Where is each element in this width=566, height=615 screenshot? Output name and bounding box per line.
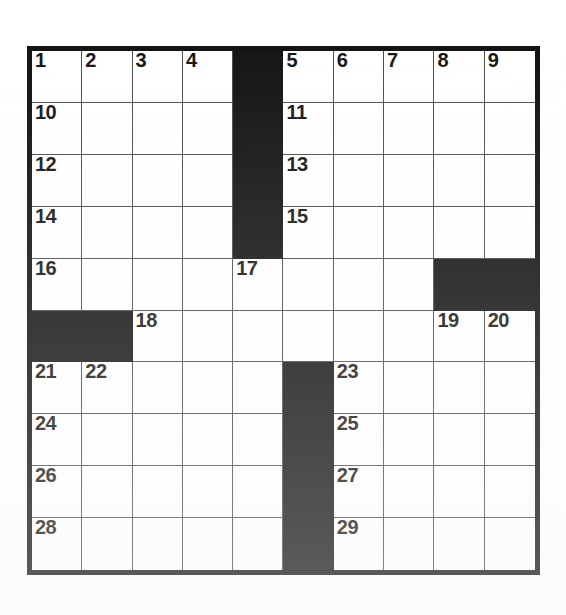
cell-number: 2 [85,51,96,72]
crossword-cell[interactable] [82,207,132,259]
crossword-cell[interactable] [485,103,535,155]
crossword-cell[interactable] [183,311,233,363]
cell-number: 14 [35,207,56,228]
crossword-cell[interactable] [384,155,434,207]
crossword-cell[interactable]: 1 [32,51,82,103]
crossword-cell[interactable]: 13 [283,155,333,207]
crossword-cell[interactable]: 19 [434,311,484,363]
crossword-cell[interactable] [384,259,434,311]
cell-number: 24 [35,414,56,435]
crossword-cell[interactable] [82,466,132,518]
crossword-cell[interactable]: 4 [183,51,233,103]
crossword-cell[interactable] [384,362,434,414]
crossword-cell[interactable] [434,414,484,466]
crossword-cell[interactable] [384,518,434,570]
crossword-cell[interactable] [384,311,434,363]
crossword-cell[interactable]: 16 [32,259,82,311]
crossword-cell[interactable]: 8 [434,51,484,103]
crossword-cell[interactable] [233,518,283,570]
crossword-cell[interactable]: 7 [384,51,434,103]
crossword-cell[interactable] [183,518,233,570]
crossword-cell[interactable] [434,207,484,259]
crossword-cell[interactable]: 10 [32,103,82,155]
crossword-cell[interactable] [485,518,535,570]
crossword-cell[interactable] [133,518,183,570]
crossword-cell[interactable] [82,103,132,155]
crossword-cell[interactable]: 28 [32,518,82,570]
crossword-cell[interactable] [133,466,183,518]
cell-number: 28 [35,518,56,539]
crossword-cell[interactable] [283,259,333,311]
crossword-cell[interactable] [133,362,183,414]
crossword-cell[interactable]: 27 [334,466,384,518]
crossword-cell[interactable] [485,155,535,207]
crossword-cell[interactable] [485,362,535,414]
cell-number: 8 [437,51,448,72]
crossword-cell[interactable] [183,207,233,259]
crossword-cell[interactable] [434,103,484,155]
crossword-cell[interactable] [133,155,183,207]
crossword-cell[interactable]: 6 [334,51,384,103]
crossword-cell[interactable] [233,362,283,414]
crossword-cell[interactable] [183,414,233,466]
crossword-block-cell [233,155,283,207]
crossword-cell[interactable] [183,103,233,155]
crossword-cell[interactable] [82,259,132,311]
crossword-cell[interactable] [434,518,484,570]
crossword-cell[interactable] [133,103,183,155]
crossword-cell[interactable] [183,466,233,518]
crossword-cell[interactable] [183,155,233,207]
crossword-cell[interactable] [334,207,384,259]
crossword-cell[interactable] [485,207,535,259]
crossword-cell[interactable]: 22 [82,362,132,414]
crossword-cell[interactable]: 21 [32,362,82,414]
crossword-cell[interactable] [384,207,434,259]
crossword-cell[interactable] [384,414,434,466]
crossword-cell[interactable]: 25 [334,414,384,466]
crossword-cell[interactable]: 26 [32,466,82,518]
crossword-cell[interactable] [82,414,132,466]
crossword-cell[interactable] [183,362,233,414]
crossword-cell[interactable] [485,414,535,466]
crossword-cell[interactable] [183,259,233,311]
cell-number: 5 [286,51,297,72]
cell-number: 1 [35,51,46,72]
crossword-cell[interactable]: 29 [334,518,384,570]
crossword-cell[interactable] [334,259,384,311]
crossword-cell[interactable] [334,155,384,207]
crossword-cell[interactable] [133,259,183,311]
crossword-cell[interactable] [334,103,384,155]
crossword-cell[interactable] [283,311,333,363]
crossword-cell[interactable]: 14 [32,207,82,259]
crossword-cell[interactable] [384,466,434,518]
crossword-cell[interactable]: 12 [32,155,82,207]
crossword-cell[interactable] [233,311,283,363]
crossword-cell[interactable]: 17 [233,259,283,311]
crossword-cell[interactable]: 9 [485,51,535,103]
crossword-cell[interactable] [334,311,384,363]
crossword-cell[interactable] [233,414,283,466]
crossword-cell[interactable]: 23 [334,362,384,414]
crossword-cell[interactable] [485,466,535,518]
crossword-block-cell [233,207,283,259]
crossword-cell[interactable] [133,414,183,466]
cell-number: 17 [236,259,257,280]
crossword-cell[interactable]: 20 [485,311,535,363]
crossword-cell[interactable]: 24 [32,414,82,466]
crossword-cell[interactable] [434,362,484,414]
crossword-cell[interactable]: 18 [133,311,183,363]
crossword-cell[interactable]: 11 [283,103,333,155]
crossword-block-cell [283,518,333,570]
crossword-cell[interactable] [384,103,434,155]
crossword-cell[interactable] [82,518,132,570]
crossword-cell[interactable] [434,155,484,207]
crossword-cell[interactable] [133,207,183,259]
crossword-cell[interactable]: 3 [133,51,183,103]
crossword-cell[interactable] [233,466,283,518]
crossword-cell[interactable]: 15 [283,207,333,259]
crossword-cell[interactable] [434,466,484,518]
crossword-grid[interactable]: 1234567891011121314151617181920212223242… [27,46,540,575]
crossword-cell[interactable]: 2 [82,51,132,103]
crossword-cell[interactable]: 5 [283,51,333,103]
crossword-cell[interactable] [82,155,132,207]
